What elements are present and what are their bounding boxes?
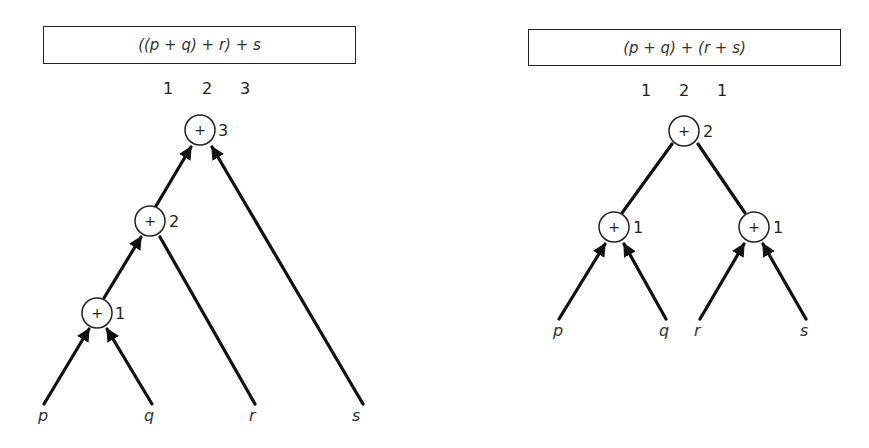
- plus-node: + 1: [599, 212, 643, 242]
- svg-text:+: +: [194, 122, 206, 138]
- svg-text:1: 1: [115, 304, 125, 323]
- leaf-s: s: [352, 406, 360, 425]
- plus-node: + 3: [185, 115, 228, 145]
- leaf-s: s: [800, 321, 808, 340]
- plus-node: + 2: [135, 206, 179, 236]
- svg-text:+: +: [144, 213, 156, 229]
- left-tree-nodes: + 1 + 2 + 3 p q r s: [37, 115, 360, 425]
- svg-text:+: +: [748, 219, 760, 235]
- leaf-q: q: [144, 406, 154, 425]
- right-tree-nodes: + 1 + 1 + 2 p q r s: [552, 116, 808, 340]
- leaf-q: q: [659, 321, 669, 340]
- leaf-r: r: [694, 321, 702, 340]
- leaf-p: p: [552, 321, 563, 340]
- svg-text:+: +: [678, 123, 690, 139]
- svg-text:1: 1: [773, 218, 783, 237]
- left-tree: [44, 147, 363, 404]
- expression-trees: + 1 + 2 + 3 p q r s +: [0, 0, 869, 448]
- svg-text:+: +: [608, 219, 620, 235]
- plus-node: + 1: [739, 212, 783, 242]
- svg-text:2: 2: [703, 122, 713, 141]
- svg-text:1: 1: [633, 218, 643, 237]
- leaf-r: r: [249, 406, 257, 425]
- plus-node: + 1: [82, 298, 125, 328]
- svg-text:2: 2: [169, 212, 179, 231]
- plus-node: + 2: [669, 116, 713, 146]
- leaf-p: p: [37, 406, 48, 425]
- svg-text:+: +: [91, 305, 103, 321]
- svg-text:3: 3: [218, 121, 228, 140]
